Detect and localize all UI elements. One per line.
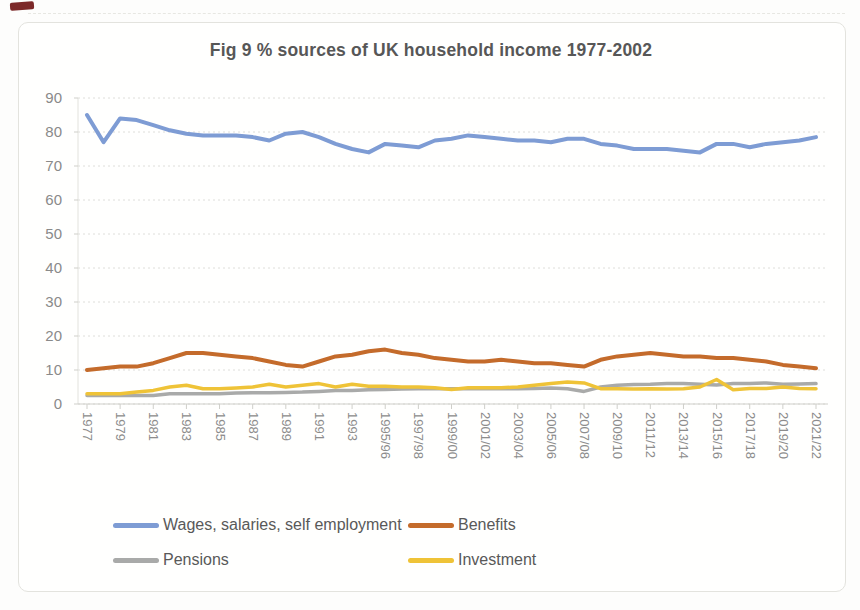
series-line-wages-salaries-self-employment: [87, 115, 816, 152]
legend-label-benefits: Benefits: [458, 515, 516, 535]
x-axis-label-1985: 1985: [212, 412, 228, 441]
x-axis-label-1991: 1991: [311, 412, 327, 441]
x-axis-label-1997-98: 1997/98: [410, 412, 426, 459]
x-axis-label-2007-08: 2007/08: [576, 412, 592, 459]
x-axis-label-1987: 1987: [245, 412, 261, 441]
y-axis-label-90: 90: [20, 90, 62, 106]
x-axis-label-2019-20: 2019/20: [775, 412, 791, 459]
legend-label-pensions: Pensions: [163, 550, 229, 570]
x-axis-label-2009-10: 2009/10: [609, 412, 625, 459]
chart-page: Fig 9 % sources of UK household income 1…: [0, 0, 860, 610]
y-axis-label-30: 30: [20, 294, 62, 310]
y-axis-label-70: 70: [20, 158, 62, 174]
y-axis-label-0: 0: [20, 396, 62, 412]
x-axis-label-1999-00: 1999/00: [444, 412, 460, 459]
legend-item-pensions: Pensions: [113, 549, 229, 571]
legend-item-investment: Investment: [408, 549, 536, 571]
legend-label-wages: Wages, salaries, self employment: [163, 515, 402, 535]
x-axis-label-1989: 1989: [278, 412, 294, 441]
y-axis-label-80: 80: [20, 124, 62, 140]
x-axis-label-2021-22: 2021/22: [808, 412, 824, 459]
y-axis-label-40: 40: [20, 260, 62, 276]
x-axis-label-1995-96: 1995/96: [377, 412, 393, 459]
legend-label-investment: Investment: [458, 550, 536, 570]
x-axis-label-2017-18: 2017/18: [742, 412, 758, 459]
benefits-line-swatch: [408, 523, 454, 528]
series-line-investment: [87, 380, 816, 394]
y-axis-label-20: 20: [20, 328, 62, 344]
x-axis-label-2013-14: 2013/14: [675, 412, 691, 459]
x-axis-label-2011-12: 2011/12: [642, 412, 658, 458]
y-axis-label-50: 50: [20, 226, 62, 242]
investment-line-swatch: [408, 558, 454, 563]
x-axis-label-1981: 1981: [145, 412, 161, 441]
x-axis-label-1979: 1979: [112, 412, 128, 441]
x-axis-label-2005-06: 2005/06: [543, 412, 559, 459]
x-axis-label-2003-04: 2003/04: [510, 412, 526, 459]
y-axis-label-10: 10: [20, 362, 62, 378]
x-axis-label-2015-16: 2015/16: [709, 412, 725, 459]
legend-item-wages: Wages, salaries, self employment: [113, 514, 402, 536]
x-axis-label-1993: 1993: [344, 412, 360, 441]
pensions-line-swatch: [113, 558, 159, 563]
wages-line-swatch: [113, 523, 159, 528]
legend-item-benefits: Benefits: [408, 514, 516, 536]
y-axis-label-60: 60: [20, 192, 62, 208]
x-axis-label-1983: 1983: [178, 412, 194, 441]
x-axis-label-1977: 1977: [79, 412, 95, 441]
series-line-benefits: [87, 350, 816, 370]
x-axis-label-2001-02: 2001/02: [477, 412, 493, 459]
